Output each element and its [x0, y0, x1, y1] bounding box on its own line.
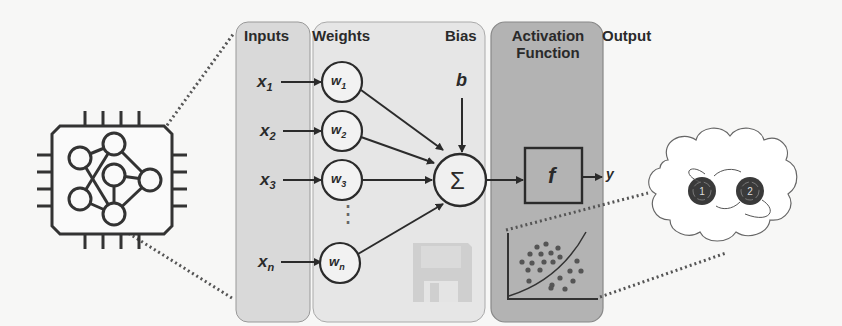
label-bias: Bias [445, 27, 477, 44]
svg-text:1: 1 [699, 186, 705, 197]
output-symbol: y [606, 166, 614, 182]
label-activation-line1: Activation [512, 27, 585, 44]
floppy-disk-icon [413, 243, 472, 302]
label-output: Output [602, 27, 651, 44]
input-x1: x1 [257, 72, 273, 93]
label-inputs: Inputs [244, 27, 289, 44]
label-weights: Weights [312, 27, 370, 44]
label-activation-line2: Function [516, 44, 579, 61]
input-x2: x2 [260, 121, 276, 142]
weight-wn: wn [329, 254, 345, 272]
state-cloud-icon: 1 2 [649, 128, 797, 241]
diagram-canvas: 1 2 [0, 0, 842, 326]
weight-w1: w1 [331, 73, 346, 91]
bias-symbol: b [456, 70, 467, 91]
activation-symbol: f [548, 163, 555, 189]
neural-chip-icon [37, 111, 187, 249]
weights-ellipsis: ⋮ [336, 203, 360, 225]
input-xn: xn [258, 252, 274, 273]
weight-w2: w2 [331, 122, 346, 140]
zoom-line-bottom [120, 228, 232, 298]
zoom-line-cloud-bottom [600, 253, 726, 297]
label-activation-function: Activation Function [504, 27, 592, 61]
input-x3: x3 [260, 170, 276, 191]
sum-symbol: Σ [450, 167, 465, 195]
svg-text:2: 2 [747, 186, 753, 197]
weight-w3: w3 [331, 171, 346, 189]
neuron-diagram: 1 2 Inputs Weights Bias Activation Funct… [0, 0, 842, 326]
